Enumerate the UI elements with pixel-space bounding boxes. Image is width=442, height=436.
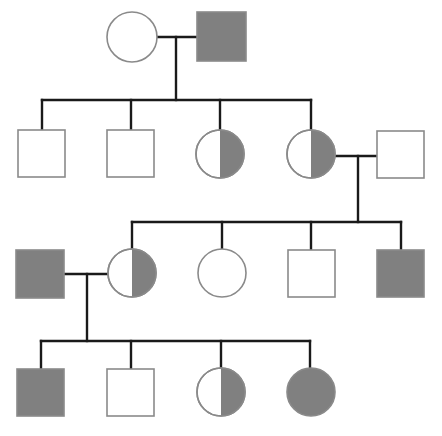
individual-III-1[interactable]	[16, 250, 64, 298]
male-square-symbol[interactable]	[197, 12, 246, 61]
individual-IV-1[interactable]	[17, 369, 64, 416]
carrier-half-shading	[220, 130, 244, 178]
male-square-symbol[interactable]	[377, 250, 424, 297]
individual-III-5[interactable]	[377, 250, 424, 297]
carrier-half-shading	[311, 130, 335, 178]
male-square-symbol[interactable]	[288, 250, 335, 297]
male-square-symbol[interactable]	[107, 369, 154, 416]
male-square-symbol[interactable]	[377, 131, 424, 178]
individual-IV-3[interactable]	[197, 368, 245, 416]
individual-III-3[interactable]	[198, 249, 246, 297]
individual-II-5[interactable]	[377, 131, 424, 178]
individual-II-1[interactable]	[18, 130, 65, 177]
female-circle-symbol[interactable]	[198, 249, 246, 297]
individual-II-3[interactable]	[196, 130, 244, 178]
carrier-half-shading	[221, 368, 245, 416]
male-square-symbol[interactable]	[18, 130, 65, 177]
individual-I-2[interactable]	[197, 12, 246, 61]
individual-III-2[interactable]	[108, 249, 156, 297]
male-square-symbol[interactable]	[17, 369, 64, 416]
generation-group-II	[18, 130, 424, 178]
male-square-symbol[interactable]	[107, 130, 154, 177]
pedigree-chart	[0, 0, 442, 436]
individual-III-4[interactable]	[288, 250, 335, 297]
carrier-half-shading	[132, 249, 156, 297]
individual-IV-2[interactable]	[107, 369, 154, 416]
individual-IV-4[interactable]	[287, 368, 335, 416]
individual-II-2[interactable]	[107, 130, 154, 177]
connector-lines-layer	[41, 37, 401, 369]
individual-II-4[interactable]	[287, 130, 335, 178]
female-circle-symbol[interactable]	[287, 368, 335, 416]
pedigree-canvas	[0, 0, 442, 436]
male-square-symbol[interactable]	[16, 250, 64, 298]
generation-group-IV	[17, 368, 335, 416]
individual-I-1[interactable]	[107, 12, 157, 62]
female-circle-symbol[interactable]	[107, 12, 157, 62]
